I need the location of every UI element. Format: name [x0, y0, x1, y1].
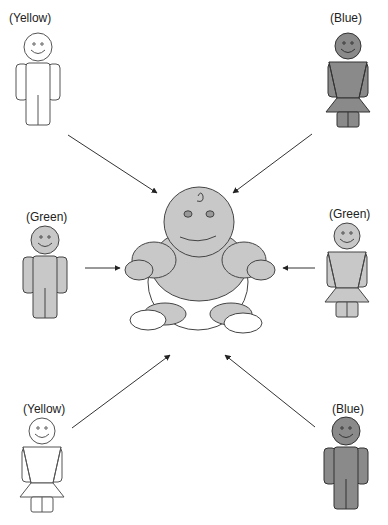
figure-bottom-left: (Yellow): [20, 402, 65, 512]
figure-mid-right: (Green): [325, 207, 370, 317]
baby-right-hand: [247, 260, 275, 280]
label-mid-left: (Green): [26, 210, 67, 224]
arrow-bottom-left: [72, 355, 170, 428]
baby-figure: [125, 187, 275, 333]
female-figure-icon: [20, 418, 64, 512]
label-top-right: (Blue): [330, 11, 362, 25]
diagram-canvas: (Yellow) (Blue) (Green) (Green) (Yellow)…: [0, 0, 388, 525]
label-top-left: (Yellow): [9, 11, 51, 25]
figure-top-left: (Yellow): [9, 11, 60, 125]
label-bottom-right: (Blue): [332, 402, 364, 416]
baby-left-hand: [125, 260, 153, 280]
baby-left-foot: [130, 310, 166, 330]
male-figure-icon: [324, 417, 368, 509]
female-figure-icon: [326, 33, 370, 127]
arrow-top-left: [68, 135, 157, 193]
arrow-bottom-right: [225, 355, 315, 427]
label-mid-right: (Green): [329, 207, 370, 221]
figure-mid-left: (Green): [23, 210, 67, 318]
baby-right-eye: [206, 211, 214, 217]
female-figure-icon: [325, 223, 369, 317]
figure-top-right: (Blue): [326, 11, 370, 127]
baby-left-eye: [184, 211, 192, 217]
male-figure-icon: [16, 33, 60, 125]
label-bottom-left: (Yellow): [23, 402, 65, 416]
baby-right-foot: [224, 313, 262, 333]
figure-bottom-right: (Blue): [324, 402, 368, 509]
male-figure-icon: [23, 226, 67, 318]
arrow-top-right: [233, 134, 312, 193]
baby-head: [164, 187, 234, 257]
